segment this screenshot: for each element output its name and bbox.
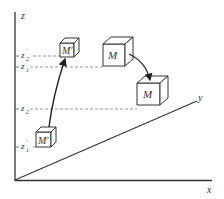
svg-text:2: 2 — [26, 56, 29, 62]
svg-text:M′: M′ — [61, 45, 73, 56]
svg-text:′: ′ — [26, 139, 28, 145]
svg-text:2: 2 — [26, 109, 29, 115]
cube-m-top: M — [103, 37, 133, 66]
level-label-z1: z 1 — [20, 61, 29, 73]
cube-m-prime-bottom: M′ — [36, 127, 56, 147]
z-axis-label: z — [20, 10, 25, 21]
svg-text:1: 1 — [26, 147, 29, 153]
svg-text:1: 1 — [26, 67, 29, 73]
svg-text:z: z — [20, 141, 25, 151]
y-axis-label: y — [197, 92, 203, 103]
x-axis-label: x — [206, 184, 212, 195]
coordinate-diagram: z y x z 2 ′ z 1 z 2 z 1 ′ M′ M — [0, 0, 224, 199]
svg-text:M: M — [107, 49, 118, 61]
level-label-z2-prime: z 2 ′ — [20, 48, 29, 62]
cube-m-bottom: M — [137, 76, 168, 105]
svg-text:′: ′ — [26, 48, 28, 54]
svg-text:M: M — [142, 88, 153, 100]
cube-m-prime-top: M′ — [60, 38, 79, 57]
svg-text:z: z — [20, 50, 25, 60]
level-label-z1-prime: z 1 ′ — [20, 139, 29, 153]
level-label-z2: z 2 — [20, 103, 29, 115]
svg-text:z: z — [20, 61, 25, 71]
svg-text:M′: M′ — [37, 135, 49, 146]
svg-text:z: z — [20, 103, 25, 113]
arrow-m-prime — [49, 59, 65, 127]
